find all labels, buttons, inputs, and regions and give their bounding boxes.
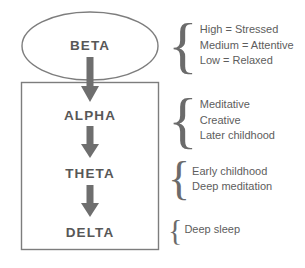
node-label-theta: THETA [0, 167, 180, 181]
delta-annotation-lines: Deep sleep [184, 222, 240, 238]
curly-brace-icon: { [168, 20, 198, 71]
curly-brace-icon: { [168, 160, 190, 198]
arrow-theta-to-delta [81, 185, 99, 217]
node-label-beta: BETA [0, 39, 180, 53]
annotation-line: Deep meditation [192, 179, 272, 195]
annotation-line: Meditative [200, 97, 275, 113]
annotation-line: Low = Relaxed [200, 53, 294, 69]
brainwave-diagram-page: BETA ALPHA THETA DELTA { High = Stressed… [0, 0, 305, 268]
theta-annotation-lines: Early childhood Deep meditation [192, 164, 272, 195]
alpha-annotation-group: { Meditative Creative Later childhood [168, 92, 275, 149]
alpha-annotation-lines: Meditative Creative Later childhood [200, 97, 275, 144]
curly-brace-icon: { [168, 218, 182, 243]
annotation-line: Creative [200, 113, 275, 129]
theta-annotation-group: { Early childhood Deep meditation [168, 158, 272, 200]
annotation-line: High = Stressed [200, 22, 294, 38]
annotation-line: Deep sleep [184, 222, 240, 238]
node-label-delta: DELTA [0, 226, 180, 240]
beta-annotation-group: { High = Stressed Medium = Attentive Low… [168, 17, 294, 74]
delta-annotation-group: { Deep sleep [168, 216, 240, 244]
annotation-line: Later childhood [200, 128, 275, 144]
curly-brace-icon: { [168, 95, 198, 146]
node-label-alpha: ALPHA [0, 109, 180, 123]
arrow-alpha-to-theta [81, 126, 99, 158]
annotation-line: Medium = Attentive [200, 38, 294, 54]
beta-annotation-lines: High = Stressed Medium = Attentive Low =… [200, 22, 294, 69]
annotation-line: Early childhood [192, 164, 272, 180]
